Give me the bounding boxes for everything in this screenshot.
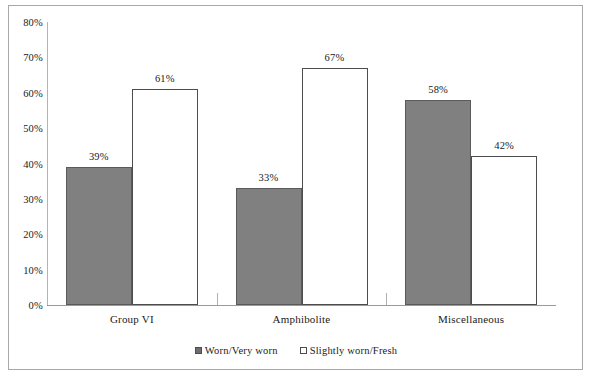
x-axis-category-label: Amphibolite [217, 313, 387, 325]
legend-entry-0[interactable]: Worn/Very worn [195, 345, 278, 356]
hollow-square-icon [300, 347, 307, 354]
bar-worn-0[interactable] [66, 167, 132, 305]
bar-value-label: 42% [471, 140, 537, 151]
legend-label: Worn/Very worn [205, 345, 278, 356]
bars-layer: 39%61%33%67%58%42% [0, 0, 592, 306]
bar-fresh-1[interactable] [302, 68, 368, 305]
x-axis-category-label: Miscellaneous [386, 313, 556, 325]
bar-fresh-2[interactable] [471, 156, 537, 305]
chart-figure: 80%70%60%50%40%30%20%10%0% 39%61%33%67%5… [0, 0, 592, 380]
bar-worn-2[interactable] [405, 100, 471, 305]
filled-square-icon [195, 347, 202, 354]
legend-entry-1[interactable]: Slightly worn/Fresh [300, 345, 398, 356]
x-axis-category-label: Group VI [47, 313, 217, 325]
bar-value-label: 33% [236, 172, 302, 183]
bar-value-label: 39% [66, 151, 132, 162]
x-axis-tick [217, 293, 218, 305]
x-axis-tick [386, 293, 387, 305]
bar-value-label: 67% [302, 52, 368, 63]
bar-value-label: 61% [132, 73, 198, 84]
bar-worn-1[interactable] [236, 188, 302, 305]
legend-label: Slightly worn/Fresh [310, 345, 398, 356]
bar-value-label: 58% [405, 84, 471, 95]
bar-fresh-0[interactable] [132, 89, 198, 305]
chart-legend: Worn/Very wornSlightly worn/Fresh [0, 345, 592, 356]
